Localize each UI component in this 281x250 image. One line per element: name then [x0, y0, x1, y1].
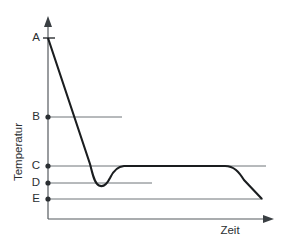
level-dot-E — [45, 196, 50, 201]
level-label-C: C — [32, 159, 40, 171]
level-label-D: D — [32, 176, 40, 188]
y-axis-title: Temperatur — [12, 123, 24, 181]
level-label-B: B — [32, 110, 40, 122]
level-dot-D — [45, 180, 50, 185]
level-label-E: E — [32, 192, 40, 204]
cooling-curve-path — [48, 38, 262, 199]
y-axis-arrow-icon — [44, 16, 52, 27]
x-axis-title: Zeit — [220, 224, 240, 236]
level-dot-C — [45, 163, 50, 168]
cooling-curve-svg: A B C D E Temperatur Zeit — [0, 0, 281, 250]
cooling-curve-figure: A B C D E Temperatur Zeit — [0, 0, 281, 250]
level-label-A: A — [32, 31, 40, 43]
level-dot-B — [45, 114, 50, 119]
x-axis-arrow-icon — [263, 215, 274, 223]
